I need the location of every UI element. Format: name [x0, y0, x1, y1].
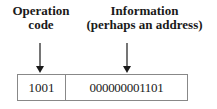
instruction-word: 1001 000000001101	[17, 74, 188, 101]
address-field: 000000001101	[66, 75, 187, 100]
opcode-arrow-icon	[36, 43, 44, 73]
info-arrow-icon	[123, 43, 131, 73]
opcode-field: 1001	[18, 75, 66, 100]
